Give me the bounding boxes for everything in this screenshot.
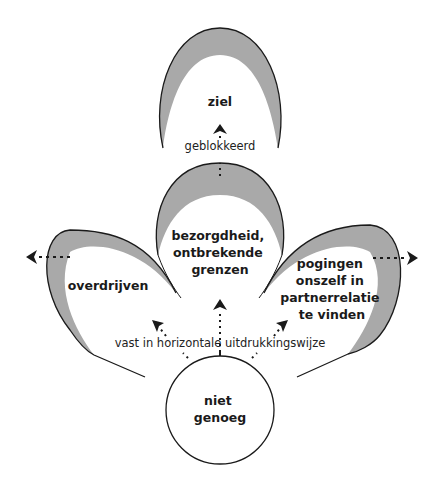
label-blocked: geblokkeerd bbox=[185, 139, 256, 153]
node-center-line: niet bbox=[204, 393, 232, 408]
node-right-line: onszelf in bbox=[296, 273, 364, 288]
node-middle-line: ontbrekende bbox=[173, 245, 263, 260]
arrowhead-icon bbox=[213, 299, 227, 310]
node-right-label: pogingen onszelf in partnerrelatie te vi… bbox=[280, 256, 384, 322]
node-top-label: ziel bbox=[208, 94, 232, 109]
arrowhead-icon bbox=[26, 250, 37, 264]
node-right-line: partnerrelatie bbox=[280, 290, 379, 305]
node-left-label: overdrijven bbox=[68, 278, 149, 293]
node-top-line: ziel bbox=[208, 94, 232, 109]
label-blocked-text: geblokkeerd bbox=[185, 139, 256, 153]
node-right-line: pogingen bbox=[297, 256, 363, 271]
node-center-line: genoeg bbox=[194, 410, 246, 425]
node-middle-label: bezorgdheid, ontbrekende grenzen bbox=[171, 228, 268, 277]
arrowhead-icon bbox=[213, 124, 227, 134]
diagram-canvas: ziel geblokkeerd bezorgdheid, ontbrekend… bbox=[0, 0, 440, 492]
arrowhead-icon bbox=[407, 251, 418, 265]
node-middle-line: grenzen bbox=[191, 262, 248, 277]
petal-left bbox=[47, 230, 176, 377]
node-right-line: te vinden bbox=[299, 307, 365, 322]
node-middle-line: bezorgdheid, bbox=[171, 228, 264, 243]
node-left-line: overdrijven bbox=[68, 278, 149, 293]
